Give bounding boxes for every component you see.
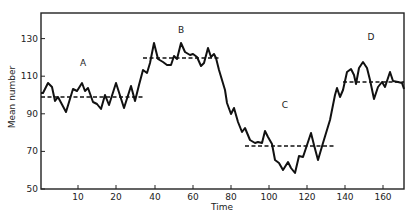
x-axis-ticks: 1020406080100120140160 <box>72 185 392 202</box>
y-tick-label: 130 <box>21 34 38 44</box>
y-tick-label: 110 <box>21 71 38 81</box>
y-tick-label: 70 <box>27 146 39 156</box>
segment-labels: ABCD <box>80 25 375 110</box>
x-axis-label: Time <box>210 202 233 212</box>
segment-label-d: D <box>368 32 375 42</box>
segment-label-b: B <box>178 25 184 35</box>
x-tick-label: 160 <box>374 192 391 202</box>
x-tick-label: 140 <box>336 192 353 202</box>
x-tick-label: 60 <box>187 192 199 202</box>
x-tick-label: 100 <box>260 192 277 202</box>
segment-label-a: A <box>80 58 87 68</box>
x-tick-label: 40 <box>149 192 161 202</box>
data-series-line <box>41 43 404 173</box>
plot-frame <box>41 13 404 189</box>
y-axis-label: Mean number <box>7 65 17 128</box>
x-tick-label: 120 <box>298 192 315 202</box>
y-tick-label: 50 <box>27 184 39 194</box>
x-tick-label: 10 <box>72 192 84 202</box>
y-tick-label: 90 <box>27 109 39 119</box>
x-tick-label: 80 <box>225 192 237 202</box>
x-tick-label: 20 <box>110 192 122 202</box>
line-chart: 507090110130 1020406080100120140160 ABCD… <box>0 0 413 222</box>
segment-label-c: C <box>282 100 288 110</box>
